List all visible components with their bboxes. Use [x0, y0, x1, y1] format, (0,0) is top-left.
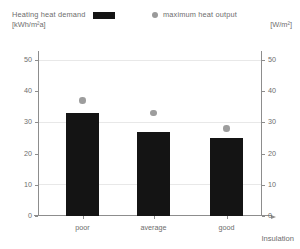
left-tick-mark-0 [35, 216, 38, 217]
right-tick-mark-30 [262, 122, 265, 123]
right-tick-mark-50 [262, 60, 265, 61]
left-axis-spine [38, 60, 39, 216]
right-tick-mark-40 [262, 91, 265, 92]
plot-area: 0 10 20 30 40 50 0 10 20 30 40 50 [38, 60, 262, 216]
dot-poor [79, 97, 86, 104]
left-tick-label-10: 10 [24, 181, 32, 188]
right-tick-label-30: 30 [268, 118, 276, 125]
left-tick-mark-30 [35, 122, 38, 123]
x-axis-title: Insulation [261, 234, 294, 243]
x-category-label-good: good [219, 224, 235, 232]
bar-good [210, 138, 243, 216]
x-category-label-average: average [141, 224, 167, 232]
bar-average [137, 132, 170, 216]
legend-dot-unit: [W/m²] [152, 20, 292, 30]
left-tick-mark-10 [35, 185, 38, 186]
gridline-50 [38, 60, 262, 61]
left-tick-label-40: 40 [24, 87, 32, 94]
dot-good [223, 125, 230, 132]
x-tick-mark-average [154, 216, 155, 219]
right-axis-spine [261, 60, 262, 216]
left-axis-spine-extension [38, 51, 39, 60]
right-tick-label-20: 20 [268, 150, 276, 157]
x-category-label-poor: poor [75, 224, 89, 232]
right-tick-mark-0 [262, 216, 265, 217]
left-tick-label-50: 50 [24, 56, 32, 63]
legend-bar-label: Heating heat demand [12, 10, 86, 20]
left-tick-mark-50 [35, 60, 38, 61]
right-tick-label-10: 10 [268, 181, 276, 188]
left-tick-mark-20 [35, 154, 38, 155]
legend-bar-row: Heating heat demand [12, 10, 152, 20]
right-tick-label-0: 0 [268, 212, 272, 219]
filled-circle-icon [152, 12, 158, 18]
chart-figure: Heating heat demand [kWh/m²a] maximum he… [0, 0, 300, 249]
right-tick-mark-10 [262, 185, 265, 186]
right-tick-label-50: 50 [268, 56, 276, 63]
x-tick-mark-good [227, 216, 228, 219]
legend-dot-series: maximum heat output [W/m²] [152, 10, 292, 30]
right-axis-spine-extension [261, 51, 262, 60]
left-tick-label-30: 30 [24, 118, 32, 125]
left-tick-mark-40 [35, 91, 38, 92]
right-tick-label-40: 40 [268, 87, 276, 94]
filled-rectangle-icon [93, 12, 115, 19]
legend-dot-label: maximum heat output [163, 10, 237, 20]
bar-poor [66, 113, 99, 216]
right-tick-mark-20 [262, 154, 265, 155]
left-tick-label-0: 0 [28, 212, 32, 219]
left-tick-label-20: 20 [24, 150, 32, 157]
legend-bar-unit: [kWh/m²a] [12, 20, 152, 30]
legend-bar-series: Heating heat demand [kWh/m²a] [12, 10, 152, 30]
x-tick-mark-poor [83, 216, 84, 219]
dot-average [150, 110, 157, 117]
legend-dot-row: maximum heat output [152, 10, 292, 20]
